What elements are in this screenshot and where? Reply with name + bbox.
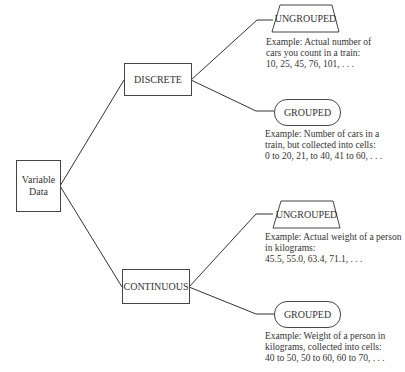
discrete-grouped-label: GROUPED [284,107,331,119]
example-line: 45.5, 55.0, 63.4, 71.1, . . . [265,254,401,265]
continuous-ungrouped-example: Example: Actual weight of a person in ki… [265,232,401,265]
variable-data-node: Variable Data [16,160,61,212]
example-line: cars you count in a train: [266,48,371,59]
discrete-grouped-node: GROUPED [274,99,341,126]
example-line: Example: Weight of a person in [265,331,385,342]
example-line: kilograms, collected into cells: [265,342,385,353]
example-line: Example: Actual number of [266,37,371,48]
discrete-ungrouped-example: Example: Actual number of cars you count… [266,37,371,70]
example-line: train, but collected into cells: [265,140,382,151]
variable-data-label-line1: Variable [22,174,55,186]
example-line: 40 to 50, 50 to 60, 60 to 70, . . . [265,353,385,364]
continuous-label: CONTINUOUS [124,281,189,293]
example-line: Example: Actual weight of a person [265,232,401,243]
variable-data-label-line2: Data [29,186,48,198]
discrete-label: DISCRETE [134,74,182,86]
discrete-node: DISCRETE [124,63,192,96]
example-line: 0 to 20, 21, to 40, 41 to 60, . . . [265,151,382,162]
discrete-ungrouped-label: UNGROUPED [272,13,339,25]
continuous-grouped-example: Example: Weight of a person in kilograms… [265,331,385,364]
example-line: in kilograms: [265,243,401,254]
continuous-grouped-label: GROUPED [284,309,331,321]
example-line: Example: Number of cars in a [265,129,382,140]
discrete-grouped-example: Example: Number of cars in a train, but … [265,129,382,162]
example-line: 10, 25, 45, 76, 101, . . . [266,59,371,70]
continuous-grouped-node: GROUPED [274,301,341,328]
continuous-node: CONTINUOUS [122,269,190,304]
continuous-ungrouped-label: UNGROUPED [273,209,340,221]
